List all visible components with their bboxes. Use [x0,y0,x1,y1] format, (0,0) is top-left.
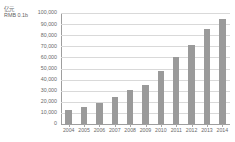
bar [173,57,179,124]
bar [142,85,148,124]
y-axis-tick-label: 30,000 [11,88,57,93]
bar-slot [138,13,153,124]
bar-slot [107,13,122,124]
bar [127,90,133,124]
x-axis-tick-label: 2005 [76,128,91,133]
x-axis-tick-label: 2014 [215,128,230,133]
bar [219,19,225,124]
bar [81,107,87,124]
y-axis-tick-label: 20,000 [11,99,57,104]
x-axis-tick-label: 2011 [169,128,184,133]
y-axis-tick-label: 80,000 [11,33,57,38]
y-axis-tick-label: 40,000 [11,77,57,82]
y-axis-tick-label: 70,000 [11,44,57,49]
bar [96,103,102,124]
bar-slot [215,13,230,124]
y-axis-tick-label: 50,000 [11,66,57,71]
y-axis-tick-label: 90,000 [11,22,57,27]
x-axis-tick-label: 2004 [61,128,76,133]
bar [65,110,71,124]
bar-slot [153,13,168,124]
bar-slot [199,13,214,124]
bar-slot [61,13,76,124]
x-axis-tick-label: 2010 [153,128,168,133]
bar [204,29,210,124]
x-axis-tick-label: 2008 [122,128,137,133]
x-axis-tick-label: 2007 [107,128,122,133]
y-axis-tick-label: 0 [11,121,57,126]
x-axis-tick-label: 2012 [184,128,199,133]
y-axis-tick-label: 60,000 [11,55,57,60]
bar [188,45,194,124]
x-axis-tick-label: 2013 [199,128,214,133]
y-axis-tick-label: 100,000 [11,10,57,15]
bar [112,97,118,124]
y-axis-tick-label: 10,000 [11,110,57,115]
bar-slot [122,13,137,124]
bars-layer [61,13,230,124]
bar-chart: 亿元 RMB 0.1b 010,00020,00030,00040,00050,… [0,0,235,142]
bar [158,71,164,124]
bar-slot [76,13,91,124]
bar-slot [169,13,184,124]
bar-slot [92,13,107,124]
x-axis-tick-label: 2006 [92,128,107,133]
x-axis-tick-label: 2009 [138,128,153,133]
bar-slot [184,13,199,124]
